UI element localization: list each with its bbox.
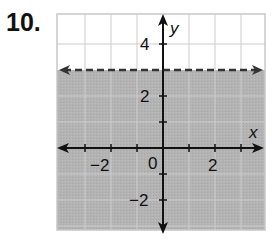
- y-tick-label-neg2: −2: [129, 191, 148, 210]
- y-axis-label: y: [169, 19, 180, 38]
- x-tick-label-2: 2: [208, 156, 217, 175]
- x-tick-label-neg2: −2: [90, 156, 109, 175]
- shaded-region: [57, 70, 265, 230]
- y-tick-label-2: 2: [140, 87, 149, 106]
- y-tick-label-4: 4: [140, 35, 149, 54]
- coordinate-plane: y x 4 2 −2 −2 0 2: [0, 0, 278, 240]
- x-axis-label: x: [248, 123, 258, 142]
- origin-label: 0: [148, 154, 157, 173]
